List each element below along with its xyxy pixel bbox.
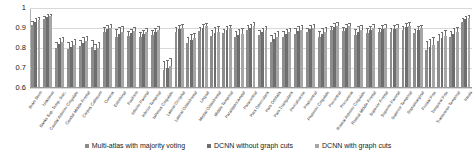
- error-bar-cap: [163, 61, 166, 62]
- bar-group: [413, 8, 423, 88]
- y-axis: 0.60.70.80.91: [0, 0, 30, 88]
- bar: [420, 28, 423, 88]
- error-bar-cap: [345, 24, 348, 25]
- error-bar-cap: [187, 37, 190, 38]
- error-bar: [433, 37, 434, 45]
- error-bar-cap: [265, 26, 268, 27]
- bar-group: [151, 8, 161, 88]
- error-bar-cap: [441, 32, 444, 33]
- error-bar-cap: [151, 30, 154, 31]
- error-bar-cap: [247, 25, 250, 26]
- error-bar-cap: [103, 27, 106, 28]
- bar-group: [246, 8, 256, 88]
- error-bar-cap: [250, 24, 253, 25]
- bar-group: [210, 8, 220, 88]
- error-bar-cap: [62, 37, 65, 38]
- error-bar-cap: [98, 42, 101, 43]
- error-bar-cap: [193, 33, 196, 34]
- error-bar-cap: [301, 25, 304, 26]
- y-tick-label: 0.7: [16, 64, 26, 72]
- bar-group: [258, 8, 268, 88]
- bar-group: [402, 8, 412, 88]
- error-bar-cap: [67, 42, 70, 43]
- bar-group: [318, 8, 328, 88]
- error-bar-cap: [127, 31, 130, 32]
- bar-group: [103, 8, 113, 88]
- bar: [38, 20, 41, 88]
- error-bar: [171, 58, 172, 66]
- error-bar-cap: [175, 27, 178, 28]
- x-tick-label: Insula: [463, 90, 473, 102]
- error-bar-cap: [130, 29, 133, 30]
- bar: [336, 26, 339, 88]
- bar: [109, 28, 112, 88]
- x-axis-labels: Brain StemUnknownBanks Sup. Temp. Sulc.C…: [30, 90, 472, 136]
- bar: [49, 16, 52, 88]
- bar-chart: 0.60.70.80.91 Brain StemUnknownBanks Sup…: [0, 0, 476, 157]
- bar-group: [234, 8, 244, 88]
- bar: [205, 26, 208, 88]
- bar: [276, 37, 279, 88]
- bar-group: [270, 8, 280, 88]
- error-bar-cap: [348, 23, 351, 24]
- bar: [229, 28, 232, 88]
- bar: [121, 32, 124, 88]
- error-bar-cap: [217, 26, 220, 27]
- chart-legend: Multi-atlas with majority votingDCNN wit…: [0, 138, 476, 154]
- bar: [145, 32, 148, 88]
- error-bar-cap: [145, 28, 148, 29]
- error-bar-cap: [157, 26, 160, 27]
- legend-label: DCNN without graph cuts: [214, 142, 293, 150]
- error-bar-cap: [214, 27, 217, 28]
- bar: [444, 36, 447, 88]
- error-bar-cap: [313, 24, 316, 25]
- error-bar-cap: [468, 15, 471, 16]
- bar: [73, 45, 76, 88]
- error-bar-cap: [282, 31, 285, 32]
- bar: [432, 45, 435, 88]
- error-bar-cap: [405, 23, 408, 24]
- error-bar-cap: [94, 44, 97, 45]
- error-bar: [93, 40, 94, 47]
- plot-area: [30, 8, 472, 88]
- error-bar-cap: [456, 27, 459, 28]
- error-bar-cap: [357, 26, 360, 27]
- error-bar-cap: [38, 17, 41, 18]
- bar-group: [79, 8, 89, 88]
- bar-group: [222, 8, 232, 88]
- bar-group: [449, 8, 459, 88]
- legend-swatch: [207, 144, 211, 148]
- error-bar-cap: [79, 40, 82, 41]
- bar: [312, 28, 315, 88]
- bar: [288, 32, 291, 88]
- bar-group: [55, 8, 65, 88]
- error-bar-cap: [229, 25, 232, 26]
- error-bar-cap: [181, 24, 184, 25]
- error-bar-cap: [366, 28, 369, 29]
- x-tick-label: Brain Stem: [27, 90, 43, 109]
- error-bar-cap: [393, 25, 396, 26]
- bar: [217, 32, 220, 88]
- error-bar-cap: [289, 28, 292, 29]
- error-bar-cap: [121, 26, 124, 27]
- bar-group: [390, 8, 400, 88]
- bar-group: [330, 8, 340, 88]
- error-bar-cap: [360, 25, 363, 26]
- error-bar-cap: [277, 31, 280, 32]
- error-bar-cap: [258, 30, 261, 31]
- bar-group: [354, 8, 364, 88]
- error-bar-cap: [50, 14, 53, 15]
- error-bar-cap: [432, 37, 435, 38]
- legend-entry: DCNN without graph cuts: [207, 142, 293, 150]
- bar-group: [342, 8, 352, 88]
- bar-group: [198, 8, 208, 88]
- bar: [396, 28, 399, 88]
- error-bar-cap: [453, 28, 456, 29]
- bar: [372, 28, 375, 88]
- error-bar-cap: [74, 39, 77, 40]
- bar-group: [366, 8, 376, 88]
- legend-label: Multi-atlas with majority voting: [92, 142, 185, 150]
- bar-group: [425, 8, 435, 88]
- error-bar-cap: [35, 18, 38, 19]
- error-bar-cap: [274, 33, 277, 34]
